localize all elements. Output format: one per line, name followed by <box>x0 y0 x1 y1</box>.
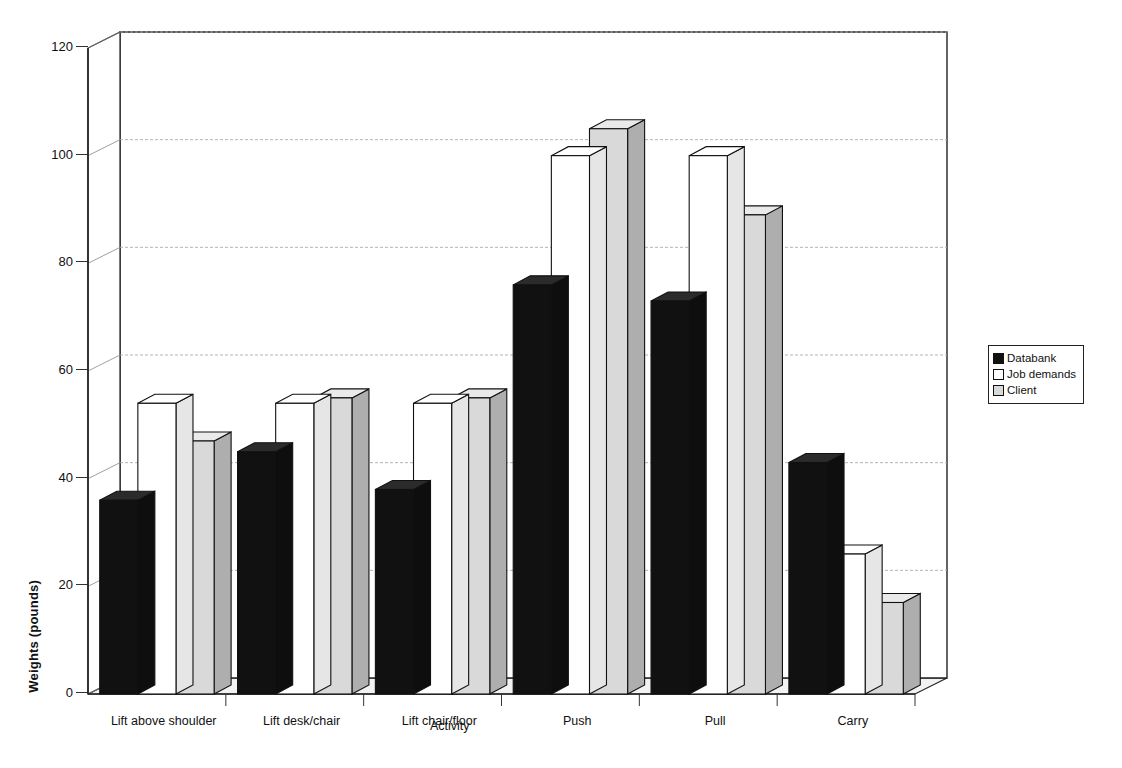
legend-item: Databank <box>993 351 1076 366</box>
x-axis-tick-label: Pull <box>705 714 726 728</box>
legend-label: Job demands <box>1007 367 1076 382</box>
x-axis-tick-label: Lift desk/chair <box>263 714 340 728</box>
legend-label: Databank <box>1007 351 1056 366</box>
plot-area <box>0 0 1122 768</box>
x-axis-tick-label: Push <box>563 714 592 728</box>
bar <box>513 276 568 694</box>
legend-label: Client <box>1007 383 1036 398</box>
bar <box>100 491 155 694</box>
bar <box>789 454 844 694</box>
bar <box>375 480 430 694</box>
legend: DatabankJob demandsClient <box>988 345 1084 404</box>
legend-swatch <box>993 385 1004 396</box>
x-axis-title: Activity <box>430 719 470 733</box>
legend-item: Client <box>993 383 1076 398</box>
legend-swatch <box>993 369 1004 380</box>
chart-root: Weights (pounds) 020406080100120 Lift ab… <box>0 0 1122 768</box>
x-axis-tick-label: Carry <box>838 714 869 728</box>
legend-swatch <box>993 353 1004 364</box>
x-axis-tick-label: Lift above shoulder <box>111 714 217 728</box>
legend-item: Job demands <box>993 367 1076 382</box>
bar <box>651 292 706 694</box>
bar <box>238 443 293 694</box>
